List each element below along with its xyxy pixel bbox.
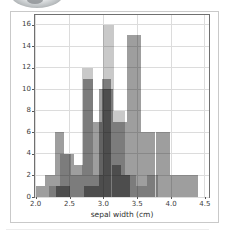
- x-tick-label: 2.5: [64, 201, 75, 208]
- y-tick-mark: [32, 68, 34, 69]
- x-tick-label: 2.0: [30, 201, 41, 208]
- x-tick-mark: [205, 197, 206, 199]
- y-tick-label: 6: [13, 129, 31, 136]
- x-tick-mark: [103, 197, 104, 199]
- histogram-bar: [60, 154, 71, 197]
- x-axis-label: sepal width (cm): [91, 211, 154, 219]
- histogram-bar: [147, 175, 158, 197]
- histogram-bar: [36, 186, 45, 197]
- histogram-bar: [125, 175, 136, 197]
- y-tick-label: 4: [13, 150, 31, 157]
- y-tick-label: 10: [13, 86, 31, 93]
- histogram-bar: [93, 175, 104, 197]
- x-tick-mark: [171, 197, 172, 199]
- y-tick-label: 12: [13, 64, 31, 71]
- histogram-bar: [184, 175, 198, 197]
- histogram-bar: [170, 175, 184, 197]
- y-tick-mark: [32, 111, 34, 112]
- y-tick-mark: [32, 175, 34, 176]
- histogram-bar: [156, 132, 170, 197]
- histogram-bar: [114, 111, 125, 197]
- y-tick-mark: [32, 89, 34, 90]
- histogram-bar: [127, 35, 141, 197]
- y-tick-mark: [32, 25, 34, 26]
- y-tick-label: 14: [13, 43, 31, 50]
- histogram-bar: [82, 68, 93, 197]
- histogram-bar: [136, 186, 147, 197]
- x-tick-mark: [70, 197, 71, 199]
- x-tick-mark: [36, 197, 37, 199]
- bottom-shadow-line: [6, 229, 209, 230]
- y-tick-label: 16: [13, 21, 31, 28]
- bars-layer: [35, 15, 209, 197]
- y-tick-label: 0: [13, 194, 31, 201]
- page: 2.02.53.03.54.04.5 0246810121416 sepal w…: [0, 0, 227, 235]
- x-tick-label: 4.0: [166, 201, 177, 208]
- y-tick-mark: [32, 46, 34, 47]
- x-tick-label: 4.5: [199, 201, 210, 208]
- figure-frame: 2.02.53.03.54.04.5 0246810121416 sepal w…: [10, 11, 219, 223]
- y-tick-label: 2: [13, 172, 31, 179]
- y-tick-mark: [32, 197, 34, 198]
- y-tick-mark: [32, 132, 34, 133]
- x-tick-label: 3.5: [132, 201, 143, 208]
- y-tick-mark: [32, 154, 34, 155]
- histogram-bar: [103, 25, 114, 197]
- plot-area: [34, 14, 210, 198]
- x-tick-label: 3.0: [98, 201, 109, 208]
- histogram-bar: [71, 175, 82, 197]
- y-tick-label: 8: [13, 107, 31, 114]
- x-tick-mark: [137, 197, 138, 199]
- histogram-bar: [49, 186, 60, 197]
